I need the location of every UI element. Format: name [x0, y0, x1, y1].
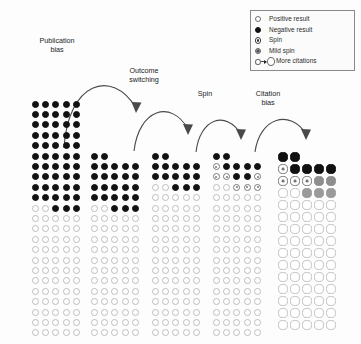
positive-result-dot-large — [278, 320, 287, 329]
dot-cell — [289, 175, 301, 187]
dot-row — [277, 295, 337, 307]
spin-dot-large — [314, 188, 323, 197]
dot-cell — [211, 151, 221, 161]
negative-result-dot — [91, 194, 98, 201]
positive-result-dot — [132, 267, 139, 274]
negative-result-dot — [52, 173, 59, 180]
positive-result-dot — [101, 246, 108, 253]
dot-cell — [301, 223, 313, 235]
dot-cell — [242, 151, 252, 161]
dot-cell — [289, 283, 301, 295]
dot-row — [89, 328, 141, 338]
negative-result-dot — [152, 153, 159, 160]
positive-result-dot — [32, 225, 39, 232]
positive-result-dot — [172, 246, 179, 253]
dot-row — [89, 296, 141, 306]
positive-result-dot — [42, 236, 49, 243]
positive-result-dot — [63, 298, 70, 305]
positive-result-dot — [111, 257, 118, 264]
positive-result-dot — [122, 236, 129, 243]
dot-cell — [325, 283, 337, 295]
negative-result-dot — [32, 121, 39, 128]
dot-cell — [51, 234, 61, 244]
positive-result-dot — [254, 194, 261, 201]
negative-result-dot — [52, 111, 59, 118]
positive-result-dot — [132, 288, 139, 295]
positive-result-dot — [101, 277, 108, 284]
negative-result-dot — [52, 132, 59, 139]
dot-cell — [192, 234, 202, 244]
dot-column-all-conducted-studies — [30, 99, 82, 338]
positive-result-dot — [152, 194, 159, 201]
dot-cell — [89, 172, 99, 182]
dot-cell — [61, 182, 71, 192]
dot-row — [150, 213, 202, 223]
dot-cell — [131, 307, 141, 317]
positive-result-dot — [42, 319, 49, 326]
dot-cell — [51, 99, 61, 109]
positive-result-dot — [111, 298, 118, 305]
positive-result-dot — [73, 288, 80, 295]
dot-cell — [232, 193, 242, 203]
dot-cell — [181, 245, 191, 255]
dot-row — [30, 120, 82, 130]
dot-row — [150, 224, 202, 234]
positive-result-dot — [233, 288, 240, 295]
dot-cell — [277, 151, 289, 163]
positive-result-dot — [152, 319, 159, 326]
negative-result-dot — [193, 184, 200, 191]
dot-row — [150, 151, 202, 161]
positive-result-dot — [91, 225, 98, 232]
dot-cell — [51, 307, 61, 317]
dot-cell — [160, 255, 170, 265]
dot-cell — [289, 187, 301, 199]
dot-column-after-citation-bias — [277, 151, 337, 331]
dot-row — [30, 276, 82, 286]
negative-result-dot — [302, 164, 311, 173]
dot-cell — [30, 99, 40, 109]
dot-cell — [131, 224, 141, 234]
positive-result-dot-large — [302, 248, 311, 257]
dot-cell — [277, 211, 289, 223]
legend-label: Mild spin — [269, 48, 295, 54]
dot-cell — [301, 187, 313, 199]
positive-result-dot — [63, 236, 70, 243]
dot-cell — [61, 224, 71, 234]
positive-result-dot — [111, 329, 118, 336]
dot-cell — [181, 172, 191, 182]
dot-cell — [171, 265, 181, 275]
dot-cell — [211, 286, 221, 296]
dot-cell — [61, 255, 71, 265]
dot-cell — [131, 234, 141, 244]
dot-cell — [313, 175, 325, 187]
positive-result-dot-large — [290, 212, 299, 221]
positive-result-dot — [132, 277, 139, 284]
negative-result-dot — [91, 153, 98, 160]
dot-row — [30, 328, 82, 338]
negative-result-dot — [42, 153, 49, 160]
positive-result-dot — [244, 267, 251, 274]
dot-cell — [301, 319, 313, 331]
negative-result-dot — [52, 163, 59, 170]
positive-result-dot — [122, 329, 129, 336]
dot-cell — [211, 255, 221, 265]
stage-label-publication-bias: Publication bias — [26, 37, 88, 54]
arrow-citation-bias — [252, 104, 318, 156]
positive-result-dot — [32, 319, 39, 326]
dot-row — [30, 109, 82, 119]
dot-cell — [150, 307, 160, 317]
positive-result-dot — [254, 267, 261, 274]
dot-cell — [120, 255, 130, 265]
positive-result-dot-large — [290, 260, 299, 269]
positive-result-dot-large — [314, 308, 323, 317]
dot-row — [277, 319, 337, 331]
positive-result-dot — [213, 267, 220, 274]
dot-cell — [110, 203, 120, 213]
legend-label: Negative result — [269, 27, 312, 33]
positive-result-dot — [254, 298, 261, 305]
dot-cell — [40, 109, 50, 119]
negative-result-dot — [32, 173, 39, 180]
dot-cell — [61, 213, 71, 223]
negative-result-dot — [91, 173, 98, 180]
dot-cell — [40, 244, 50, 254]
